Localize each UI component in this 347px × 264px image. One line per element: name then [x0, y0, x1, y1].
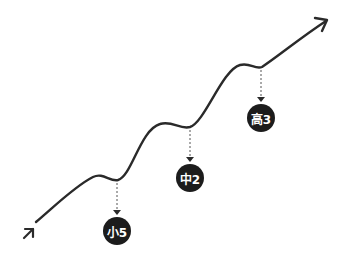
milestone-badge-small-5: 小5	[103, 217, 131, 245]
milestone-badge-middle-2: 中2	[176, 164, 204, 192]
growth-curve	[36, 21, 326, 222]
milestone-badge-high-3: 高3	[247, 104, 275, 132]
milestone-label: 高3	[251, 110, 270, 127]
growth-diagram: 小5 中2 高3	[0, 0, 347, 264]
diagram-graphic	[0, 0, 347, 264]
pointer-high-3	[257, 70, 265, 102]
milestone-label: 中2	[180, 170, 199, 187]
pointer-middle-2	[186, 130, 194, 162]
pointer-small-5	[113, 183, 121, 215]
start-arrow-icon	[24, 229, 33, 238]
milestone-label: 小5	[107, 223, 126, 240]
